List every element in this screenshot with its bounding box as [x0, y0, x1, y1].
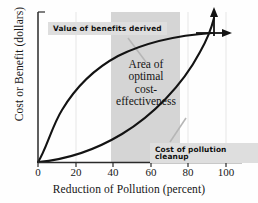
chart-figure: Cost or Benefit (dollars) Reduction of P… [0, 0, 258, 203]
cost-callout-label: Cost of pollution cleanup [150, 143, 258, 163]
optimal-area-label: Area of optimal cost- effectiveness [108, 58, 184, 108]
optimal-area-line-4: effectiveness [108, 95, 184, 107]
optimal-area-line-2: optimal [108, 70, 184, 82]
optimal-area-line-3: cost- [108, 83, 184, 95]
x-axis-label: Reduction of Pollution (percent) [0, 183, 258, 195]
benefits-callout-label: Value of benefits derived [48, 22, 167, 35]
optimal-area-line-1: Area of [108, 58, 184, 70]
x-tick-80: 80 [183, 166, 194, 178]
x-tick-0: 0 [35, 166, 41, 178]
x-tick-40: 40 [108, 166, 119, 178]
x-tick-60: 60 [146, 166, 157, 178]
x-tick-20: 20 [71, 166, 82, 178]
x-tick-100: 100 [218, 166, 235, 178]
y-axis-label: Cost or Benefit (dollars) [13, 0, 25, 139]
